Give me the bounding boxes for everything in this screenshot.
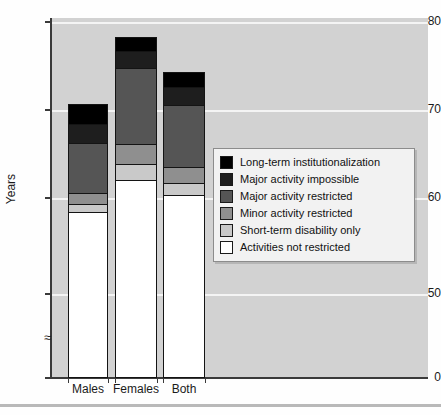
gridline-50 — [52, 294, 428, 296]
segment-major-activity-restricted[interactable] — [163, 105, 205, 167]
y-tick-mark-60 — [45, 197, 51, 199]
segment-activities-not-restricted[interactable] — [115, 180, 157, 378]
y-tick-mark-50 — [45, 293, 51, 295]
legend-swatch-icon — [220, 173, 233, 186]
y-tick-mark-0 — [45, 377, 51, 379]
y-tick-label-0: 0 — [397, 371, 441, 383]
segment-major-activity-restricted[interactable] — [68, 143, 108, 193]
segment-major-activity-impossible[interactable] — [163, 87, 205, 105]
segment-minor-activity-restricted[interactable] — [163, 167, 205, 183]
legend-item[interactable]: Activities not restricted — [220, 239, 408, 256]
figure-bottom-rule — [0, 404, 441, 407]
segment-long-term-institutionalization[interactable] — [163, 72, 205, 87]
y-tick-label-70: 70 — [397, 103, 441, 115]
legend-swatch-icon — [220, 190, 233, 203]
segment-major-activity-impossible[interactable] — [68, 124, 108, 143]
chart-figure: 80 70 60 50 0 ≈ Years Males Females B — [0, 0, 441, 415]
legend-swatch-icon — [220, 224, 233, 237]
legend-item-label: Short-term disability only — [240, 224, 360, 237]
segment-major-activity-impossible[interactable] — [115, 51, 157, 68]
legend-item-label: Major activity restricted — [240, 190, 352, 203]
segment-short-term-disability-only[interactable] — [115, 164, 157, 180]
legend-item-label: Long-term institutionalization — [240, 156, 380, 169]
y-axis-title: Years — [4, 154, 18, 224]
segment-major-activity-restricted[interactable] — [115, 68, 157, 144]
segment-activities-not-restricted[interactable] — [68, 212, 108, 378]
legend-item[interactable]: Major activity impossible — [220, 171, 408, 188]
legend-item-label: Minor activity restricted — [240, 207, 352, 220]
x-tick-label-both: Both — [154, 382, 214, 396]
segment-short-term-disability-only[interactable] — [163, 183, 205, 195]
legend-item[interactable]: Long-term institutionalization — [220, 154, 408, 171]
legend-item[interactable]: Short-term disability only — [220, 222, 408, 239]
bar-females[interactable] — [115, 37, 157, 378]
chart-legend: Long-term institutionalization Major act… — [213, 148, 415, 262]
legend-item[interactable]: Minor activity restricted — [220, 205, 408, 222]
gridline-80 — [52, 22, 428, 24]
gridline-70 — [52, 110, 428, 112]
bar-both[interactable] — [163, 72, 205, 378]
bar-males[interactable] — [68, 104, 108, 378]
y-tick-mark-70 — [45, 109, 51, 111]
legend-item-label: Activities not restricted — [240, 241, 350, 254]
legend-item-label: Major activity impossible — [240, 173, 359, 186]
legend-swatch-icon — [220, 241, 233, 254]
segment-long-term-institutionalization[interactable] — [68, 104, 108, 124]
axis-break-symbol: ≈ — [44, 331, 58, 345]
segment-minor-activity-restricted[interactable] — [115, 144, 157, 164]
legend-swatch-icon — [220, 156, 233, 169]
y-tick-label-80: 80 — [397, 15, 441, 27]
legend-item[interactable]: Major activity restricted — [220, 188, 408, 205]
y-tick-label-50: 50 — [397, 287, 441, 299]
legend-swatch-icon — [220, 207, 233, 220]
segment-short-term-disability-only[interactable] — [68, 204, 108, 212]
segment-activities-not-restricted[interactable] — [163, 195, 205, 378]
segment-long-term-institutionalization[interactable] — [115, 37, 157, 51]
y-tick-mark-80 — [45, 21, 51, 23]
segment-minor-activity-restricted[interactable] — [68, 193, 108, 204]
